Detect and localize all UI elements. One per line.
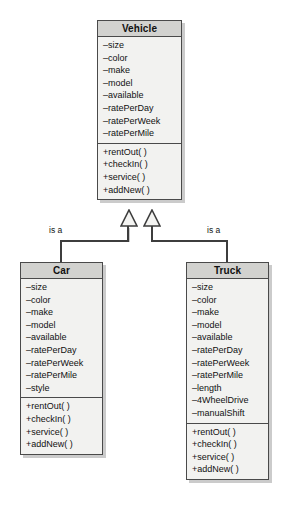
- method-row: +service( ): [98, 171, 181, 184]
- attribute-row: –make: [21, 306, 102, 319]
- method-row: +rentOut( ): [98, 146, 181, 159]
- attribute-row: –style: [21, 382, 102, 395]
- method-row: +addNew( ): [187, 463, 268, 476]
- method-row: +service( ): [21, 426, 102, 439]
- attribute-row: –ratePerWeek: [21, 357, 102, 370]
- method-row: +checkIn( ): [98, 158, 181, 171]
- attribute-row: –color: [187, 294, 268, 307]
- attribute-row: –make: [187, 306, 268, 319]
- attribute-row: –available: [98, 89, 181, 102]
- attribute-row: –model: [187, 319, 268, 332]
- connector-vehicle-truck-horizontal: [151, 240, 228, 242]
- methods-compartment-vehicle: +rentOut( ) +checkIn( ) +service( ) +add…: [98, 143, 181, 199]
- attribute-row: –model: [21, 319, 102, 332]
- method-row: +addNew( ): [21, 438, 102, 451]
- attributes-compartment-vehicle: –size –color –make –model –available –ra…: [98, 37, 181, 143]
- method-row: +service( ): [187, 451, 268, 464]
- generalization-arrow-truck: [143, 209, 161, 228]
- attribute-row: –size: [21, 281, 102, 294]
- connector-vehicle-car-drop: [60, 240, 62, 263]
- methods-compartment-truck: +rentOut( ) +checkIn( ) +service( ) +add…: [187, 423, 268, 479]
- method-row: +checkIn( ): [187, 438, 268, 451]
- attribute-row: –available: [21, 331, 102, 344]
- attribute-row: –4WheelDrive: [187, 394, 268, 407]
- class-name-truck: Truck: [187, 263, 268, 279]
- attribute-row: –color: [98, 52, 181, 65]
- methods-compartment-car: +rentOut( ) +checkIn( ) +service( ) +add…: [21, 397, 102, 453]
- attribute-row: –length: [187, 382, 268, 395]
- method-row: +rentOut( ): [187, 426, 268, 439]
- attribute-row: –ratePerMile: [98, 127, 181, 140]
- attribute-row: –ratePerWeek: [187, 357, 268, 370]
- attribute-row: –make: [98, 64, 181, 77]
- method-row: +rentOut( ): [21, 400, 102, 413]
- attributes-compartment-car: –size –color –make –model –available –ra…: [21, 279, 102, 397]
- generalization-arrow-car: [120, 209, 138, 228]
- attribute-row: –available: [187, 331, 268, 344]
- attribute-row: –size: [187, 281, 268, 294]
- connector-vehicle-car-horizontal: [60, 240, 129, 242]
- attribute-row: –color: [21, 294, 102, 307]
- relationship-label-car: is a: [49, 225, 62, 235]
- attribute-row: –model: [98, 77, 181, 90]
- uml-class-diagram: is a is a Vehicle –size –color –make –mo…: [0, 0, 282, 513]
- attribute-row: –ratePerDay: [98, 102, 181, 115]
- relationship-label-truck: is a: [207, 225, 220, 235]
- method-row: +checkIn( ): [21, 413, 102, 426]
- attribute-row: –ratePerDay: [21, 344, 102, 357]
- connector-vehicle-truck-drop: [226, 240, 228, 263]
- attribute-row: –ratePerDay: [187, 344, 268, 357]
- attribute-row: –manualShift: [187, 407, 268, 420]
- class-box-truck[interactable]: Truck –size –color –make –model –availab…: [186, 262, 269, 480]
- class-name-car: Car: [21, 263, 102, 279]
- class-box-car[interactable]: Car –size –color –make –model –available…: [20, 262, 103, 455]
- method-row: +addNew( ): [98, 184, 181, 197]
- attribute-row: –ratePerMile: [187, 369, 268, 382]
- class-name-vehicle: Vehicle: [98, 21, 181, 37]
- attribute-row: –ratePerWeek: [98, 115, 181, 128]
- attributes-compartment-truck: –size –color –make –model –available –ra…: [187, 279, 268, 423]
- attribute-row: –ratePerMile: [21, 369, 102, 382]
- class-box-vehicle[interactable]: Vehicle –size –color –make –model –avail…: [97, 20, 182, 200]
- attribute-row: –size: [98, 39, 181, 52]
